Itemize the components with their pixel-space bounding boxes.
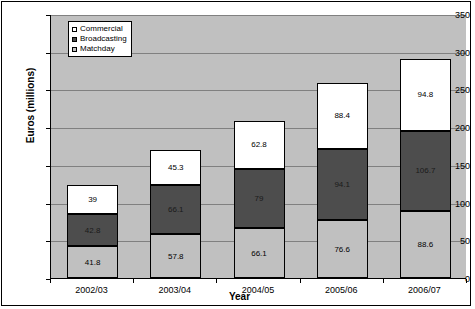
chart-frame: 41.842.83957.866.145.366.17962.876.694.1…	[1, 1, 471, 306]
y-tick-mark	[46, 15, 50, 16]
legend-swatch-icon	[72, 37, 77, 42]
x-tick-label: 2003/04	[130, 285, 220, 295]
x-tick-label: 2002/03	[47, 285, 137, 295]
bar-segment-matchday[interactable]: 66.1	[234, 228, 285, 278]
y-tick-mark	[46, 53, 50, 54]
legend-item-label: Broadcasting	[80, 34, 127, 44]
x-tick-mark	[133, 279, 134, 283]
legend-item[interactable]: Matchday	[72, 44, 127, 54]
bar-segment-broadcast[interactable]: 94.1	[317, 149, 368, 220]
y-tick-mark	[46, 128, 50, 129]
x-tick-mark	[466, 279, 467, 283]
bar-segment-commercial[interactable]: 39	[67, 185, 118, 214]
x-tick-mark	[300, 279, 301, 283]
y-axis-title: Euros (millions)	[25, 31, 36, 181]
bar-segment-commercial[interactable]: 94.8	[400, 59, 451, 131]
legend-swatch-icon	[72, 27, 77, 32]
bar-segment-broadcast[interactable]: 79	[234, 169, 285, 229]
x-tick-mark	[383, 279, 384, 283]
y-tick-mark	[46, 241, 50, 242]
bar-segment-broadcast[interactable]: 66.1	[150, 185, 201, 235]
x-tick-mark	[50, 279, 51, 283]
y-tick-label: 50	[430, 237, 470, 246]
bar-segment-broadcast[interactable]: 42.8	[67, 214, 118, 246]
bar-segment-matchday[interactable]: 57.8	[150, 234, 201, 278]
y-tick-label: 150	[430, 161, 470, 170]
chart-legend: CommercialBroadcastingMatchday	[68, 21, 132, 57]
bar-segment-commercial[interactable]: 88.4	[317, 83, 368, 150]
y-tick-label: 250	[430, 86, 470, 95]
y-tick-mark	[46, 204, 50, 205]
bar-segment-commercial[interactable]: 62.8	[234, 121, 285, 168]
bar-stack[interactable]: 57.866.145.3	[150, 14, 201, 278]
legend-item[interactable]: Broadcasting	[72, 34, 127, 44]
legend-swatch-icon	[72, 47, 77, 52]
chart-container: 41.842.83957.866.145.366.17962.876.694.1…	[0, 0, 475, 309]
y-tick-label: 100	[430, 199, 470, 208]
x-tick-mark	[216, 279, 217, 283]
x-tick-label: 2004/05	[213, 285, 303, 295]
x-tick-label: 2005/06	[296, 285, 386, 295]
bar-segment-matchday[interactable]: 76.6	[317, 220, 368, 278]
y-tick-mark	[46, 166, 50, 167]
legend-item-label: Matchday	[80, 44, 115, 54]
bar-stack[interactable]: 66.17962.8	[234, 14, 285, 278]
y-tick-label: 200	[430, 124, 470, 133]
y-tick-mark	[46, 90, 50, 91]
bar-segment-commercial[interactable]: 45.3	[150, 150, 201, 184]
y-tick-label: 350	[430, 11, 470, 20]
x-tick-label: 2006/07	[379, 285, 469, 295]
legend-item[interactable]: Commercial	[72, 24, 127, 34]
bar-stack[interactable]: 76.694.188.4	[317, 14, 368, 278]
y-tick-label: 0	[430, 275, 470, 284]
y-tick-label: 300	[430, 48, 470, 57]
legend-item-label: Commercial	[80, 24, 123, 34]
bar-segment-matchday[interactable]: 41.8	[67, 246, 118, 278]
